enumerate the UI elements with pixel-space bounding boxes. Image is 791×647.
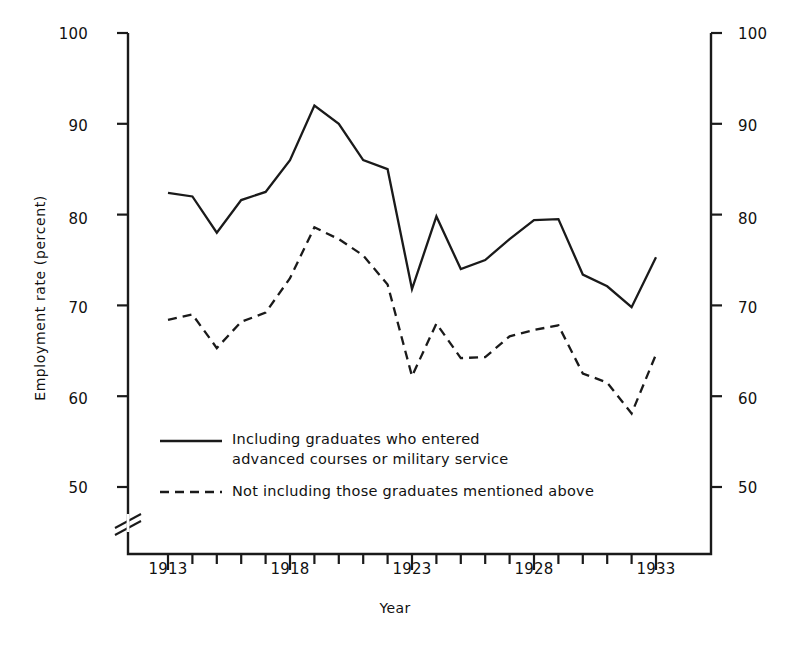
data-series <box>168 106 656 414</box>
ytick-left-100: 100 <box>44 25 88 43</box>
legend-sample-lines <box>160 441 222 492</box>
ytick-right-90: 90 <box>738 117 782 135</box>
ytick-left-70: 70 <box>44 299 88 317</box>
series-line-1 <box>168 227 656 413</box>
ytick-left-60: 60 <box>44 390 88 408</box>
y-axis-label: Employment rate (percent) <box>32 173 48 423</box>
ytick-left-90: 90 <box>44 117 88 135</box>
ytick-left-80: 80 <box>44 210 88 228</box>
xtick-1913: 1913 <box>138 560 198 578</box>
chart-figure: 100 90 80 70 60 50 100 90 80 70 60 50 19… <box>0 0 791 647</box>
ytick-right-50: 50 <box>738 479 782 497</box>
legend-entry-0-label: Including graduates who entered advanced… <box>232 430 508 469</box>
xtick-1918: 1918 <box>260 560 320 578</box>
chart-plot-area <box>0 0 791 647</box>
xtick-1923: 1923 <box>382 560 442 578</box>
x-axis-label: Year <box>325 600 465 616</box>
ytick-right-100: 100 <box>738 25 782 43</box>
axis-frame <box>128 33 711 554</box>
legend-entry-1-label: Not including those graduates mentioned … <box>232 482 594 502</box>
ytick-left-50: 50 <box>44 479 88 497</box>
ytick-right-60: 60 <box>738 390 782 408</box>
ytick-right-80: 80 <box>738 210 782 228</box>
xtick-1928: 1928 <box>504 560 564 578</box>
series-line-0 <box>168 106 656 308</box>
ytick-right-70: 70 <box>738 299 782 317</box>
xtick-1933: 1933 <box>626 560 686 578</box>
